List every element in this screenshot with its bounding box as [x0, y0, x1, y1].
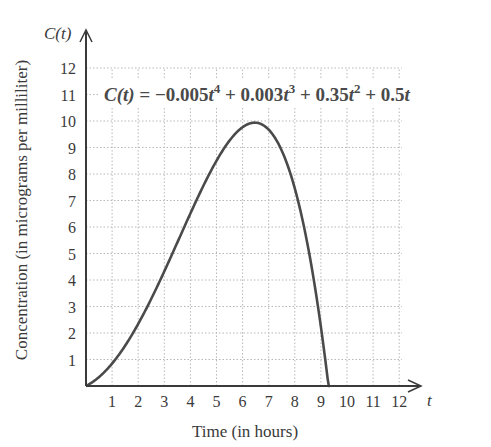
x-axis-title: Time (in hours): [192, 422, 298, 441]
x-tick-label: 1: [108, 393, 116, 410]
y-tick-label: 7: [68, 193, 76, 210]
x-tick-label: 11: [365, 393, 380, 410]
x-tick-labels: 123456789101112: [108, 393, 407, 410]
y-tick-label: 10: [60, 113, 76, 130]
concentration-curve: [86, 123, 330, 386]
y-tick-label: 2: [68, 325, 76, 342]
x-tick-label: 8: [291, 393, 299, 410]
curve-layer: [86, 123, 330, 386]
y-axis-symbol: C(t): [44, 24, 72, 43]
y-tick-label: 6: [68, 219, 76, 236]
x-tick-label: 7: [265, 393, 273, 410]
y-tick-labels: 123456789101112: [60, 60, 76, 369]
x-tick-label: 5: [213, 393, 221, 410]
y-tick-label: 4: [68, 272, 76, 289]
y-tick-label: 8: [68, 166, 76, 183]
x-tick-label: 9: [317, 393, 325, 410]
x-axis-symbol: t: [427, 391, 433, 410]
grid-lines: [86, 68, 402, 386]
y-axis-title: Concentration (in micrograms per millili…: [12, 60, 31, 360]
y-tick-label: 9: [68, 140, 76, 157]
concentration-chart: 123456789101112 123456789101112 C(t) t T…: [0, 0, 491, 447]
y-tick-label: 3: [68, 299, 76, 316]
equation-label: C(t) = −0.005t4 + 0.003t3 + 0.35t2 + 0.5…: [104, 81, 411, 106]
x-tick-label: 6: [239, 393, 247, 410]
x-tick-label: 12: [391, 393, 407, 410]
y-tick-label: 5: [68, 246, 76, 263]
x-tick-label: 3: [160, 393, 168, 410]
y-tick-label: 11: [61, 87, 76, 104]
x-tick-label: 2: [134, 393, 142, 410]
x-tick-label: 4: [186, 393, 194, 410]
y-tick-label: 1: [68, 352, 76, 369]
y-tick-label: 12: [60, 60, 76, 77]
x-tick-label: 10: [339, 393, 355, 410]
